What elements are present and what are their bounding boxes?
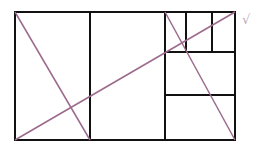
golden-rectangle-diagram: √ [0,0,257,147]
division-lines [90,12,235,140]
diagonal-line [165,12,235,140]
diagonal-line [15,12,90,140]
diagonal-lines [15,12,235,140]
diagonal-line [15,12,235,140]
check-mark: √ [242,12,251,27]
